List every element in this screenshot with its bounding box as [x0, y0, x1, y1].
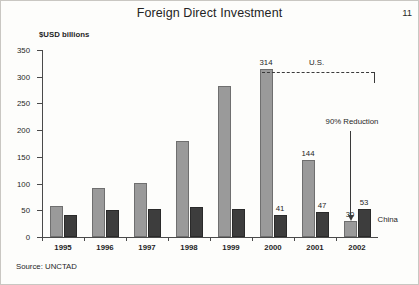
x-axis-tick-label: 1997 — [138, 243, 155, 252]
x-axis-tick-label: 2001 — [306, 243, 323, 252]
plot-area: 050100150200250300350 199519961997199819… — [42, 50, 378, 237]
x-axis-tick — [294, 237, 295, 241]
bar-value-label: 53 — [360, 198, 369, 207]
bar-value-label: 314 — [259, 58, 272, 67]
y-axis-tick: 300 — [37, 77, 42, 78]
us-series-label: U.S. — [309, 58, 324, 67]
y-axis-tick-label: 100 — [17, 179, 30, 188]
y-axis-tick-label: 250 — [17, 99, 30, 108]
y-axis-tick: 100 — [37, 184, 42, 185]
x-axis-tick-label: 1999 — [222, 243, 239, 252]
y-axis-tick-label: 50 — [21, 206, 30, 215]
y-axis-tick-label: 0 — [26, 233, 30, 242]
bar — [92, 188, 105, 237]
bar-value-label: 41 — [276, 204, 285, 213]
bar — [274, 215, 287, 237]
y-axis-tick-label: 200 — [17, 126, 30, 135]
reduction-arrow-head — [348, 215, 354, 221]
x-axis-tick-label: 1998 — [180, 243, 197, 252]
source-note: Source: UNCTAD — [16, 262, 77, 271]
y-axis-tick-label: 150 — [17, 152, 30, 161]
y-axis-tick: 200 — [37, 130, 42, 131]
bar — [64, 215, 77, 237]
x-axis-tick — [42, 237, 43, 241]
page-number: 11 — [402, 7, 412, 18]
y-axis-tick: 150 — [37, 157, 42, 158]
reduction-annotation-label: 90% Reduction — [326, 117, 379, 126]
bar — [358, 209, 371, 237]
x-axis-tick — [126, 237, 127, 241]
bar — [176, 141, 189, 237]
chart-title: Foreign Direct Investment — [0, 6, 419, 20]
china-series-label: China — [378, 215, 398, 224]
y-axis-line — [42, 50, 43, 237]
bar-value-label: 144 — [301, 149, 314, 158]
y-axis-tick: 50 — [37, 210, 42, 211]
bar — [316, 212, 329, 237]
bar — [106, 210, 119, 237]
bar — [190, 207, 203, 237]
chart-page: Foreign Direct Investment 11 $USD billio… — [0, 0, 419, 285]
x-axis-tick — [168, 237, 169, 241]
bar — [218, 86, 231, 237]
x-axis-tick — [84, 237, 85, 241]
reduction-arrow-line — [350, 131, 351, 216]
x-axis-tick-label: 2002 — [348, 243, 365, 252]
y-axis-tick-label: 300 — [17, 72, 30, 81]
y-axis-tick-label: 350 — [17, 46, 30, 55]
bar — [260, 69, 273, 237]
bar-value-label: 47 — [318, 201, 327, 210]
bar — [134, 183, 147, 237]
us-bracket-drop — [374, 72, 375, 83]
x-axis-tick-label: 2000 — [264, 243, 281, 252]
x-axis-tick-label: 1996 — [96, 243, 113, 252]
bar — [302, 160, 315, 237]
y-axis-title: $USD billions — [39, 30, 89, 39]
x-axis-tick — [252, 237, 253, 241]
x-axis-tick — [336, 237, 337, 241]
bar — [148, 209, 161, 237]
bar — [344, 221, 357, 237]
x-axis-tick-label: 1995 — [54, 243, 71, 252]
bar — [50, 206, 63, 237]
x-axis-tick — [210, 237, 211, 241]
y-axis-tick: 350 — [37, 50, 42, 51]
bar — [232, 209, 245, 237]
us-bracket-line — [262, 72, 374, 73]
y-axis-tick: 250 — [37, 103, 42, 104]
